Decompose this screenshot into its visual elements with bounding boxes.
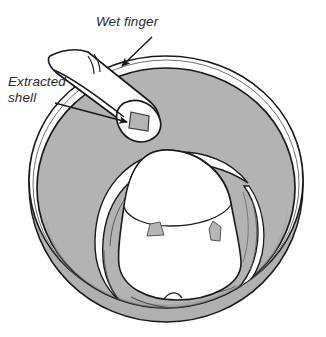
- callout-label-extracted-shell-line2: shell: [8, 90, 36, 105]
- callout-label-wet-finger: Wet finger: [96, 14, 158, 30]
- callout-label-extracted-shell: Extractedshell: [8, 74, 66, 105]
- figure-illustration: Wet finger Extractedshell: [0, 0, 326, 337]
- illustration-canvas: [0, 0, 326, 337]
- callout-label-extracted-shell-line1: Extracted: [8, 74, 66, 89]
- shell-fragment-on-fingertip: [129, 112, 149, 131]
- bowl-group: [29, 56, 303, 322]
